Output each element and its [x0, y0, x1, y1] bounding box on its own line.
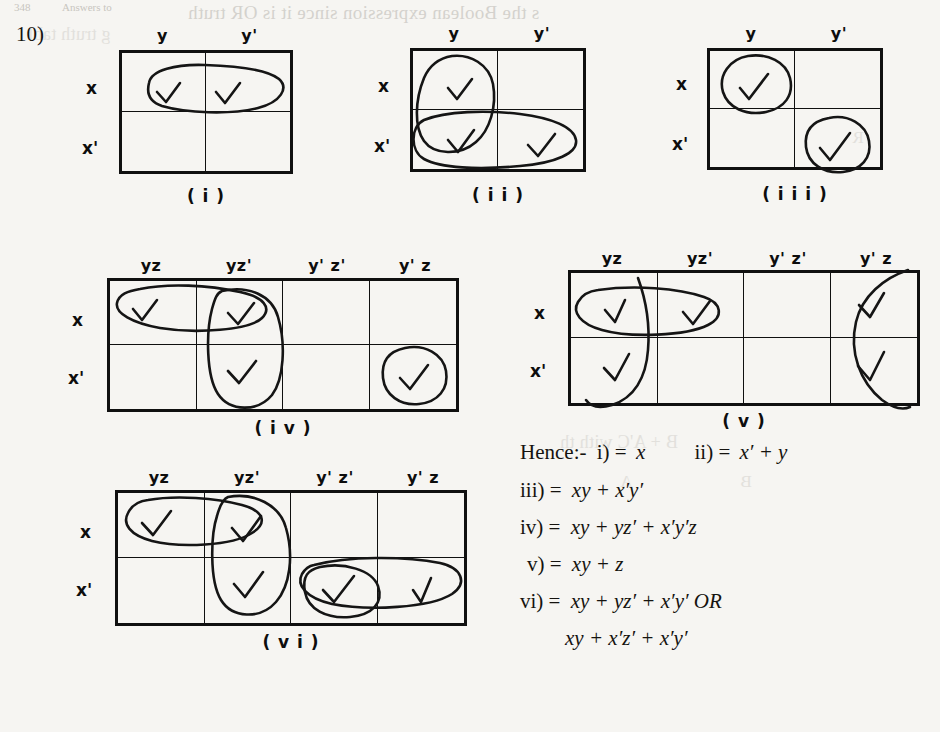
- answer-i-label: i) =: [597, 440, 627, 464]
- answer-vi-expr: xy + yz′ + x′y′ OR: [571, 589, 722, 613]
- hence-label: Hence:-: [520, 440, 586, 464]
- kmap-vi-handwriting: [0, 0, 940, 732]
- answer-vi-row: vi) = xy + yz′ + x′y′ OR: [520, 589, 722, 614]
- kmap-vi-caption: ( v i ): [115, 632, 467, 652]
- answer-v-row: v) = xy + z: [527, 552, 623, 577]
- answer-i-expr: x: [636, 440, 645, 464]
- answer-vi-alt-expr: xy + x′z′ + x′y′: [565, 626, 688, 650]
- answer-hence-row: Hence:- i) = x ii) = x′ + y: [520, 440, 787, 465]
- answer-ii-expr: x′ + y: [739, 440, 787, 464]
- answer-vi-label: vi) =: [520, 589, 560, 613]
- answer-iii-expr: xy + x′y′: [572, 478, 643, 502]
- answer-v-expr: xy + z: [572, 552, 624, 576]
- answer-v-label: v) =: [527, 552, 562, 576]
- answer-iv-row: iv) = xy + yz′ + x′y′z: [520, 515, 697, 540]
- answer-vi-alt-row: xy + x′z′ + x′y′: [565, 626, 688, 651]
- answer-iii-label: iii) =: [520, 478, 562, 502]
- answer-iii-row: iii) = xy + x′y′: [520, 478, 643, 503]
- scanned-textbook-page: 348 Answers to s the Boolean expression …: [0, 0, 940, 732]
- answer-iv-label: iv) =: [520, 515, 560, 539]
- answer-ii-label: ii) =: [694, 440, 730, 464]
- answer-iv-expr: xy + yz′ + x′y′z: [571, 515, 697, 539]
